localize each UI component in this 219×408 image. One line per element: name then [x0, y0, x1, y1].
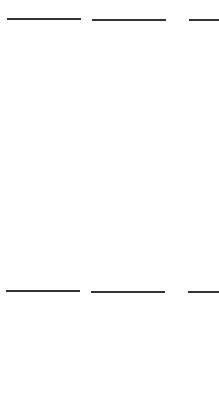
ten-frame-bottom-right — [188, 291, 219, 293]
question-number-label — [38, 233, 58, 258]
ten-frame-top-right — [189, 19, 219, 21]
ten-frame-bottom-middle — [91, 291, 165, 293]
ten-frame-bottom-left — [6, 290, 80, 292]
ten-frame-top-left — [7, 18, 81, 20]
ten-frame-top-middle — [92, 19, 166, 21]
